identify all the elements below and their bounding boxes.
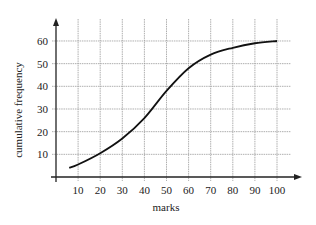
- x-tick-label: 90: [249, 184, 261, 196]
- y-tick-label: 30: [37, 103, 49, 115]
- x-tick-label: 10: [73, 184, 85, 196]
- x-axis-label: marks: [153, 201, 180, 213]
- y-axis-label: cumulative frequency: [12, 62, 24, 158]
- y-tick-label: 20: [37, 126, 49, 138]
- x-tick-label: 60: [183, 184, 195, 196]
- y-tick-label: 60: [37, 35, 49, 47]
- x-tick-label: 80: [227, 184, 239, 196]
- x-tick-label: 30: [117, 184, 129, 196]
- y-tick-label: 40: [37, 80, 49, 92]
- cumulative-frequency-chart: 102030405060708090100102030405060 marks …: [0, 0, 316, 225]
- x-tick-label: 100: [269, 184, 286, 196]
- y-axis-arrow-icon: [53, 18, 59, 26]
- y-tick-label: 50: [37, 58, 49, 70]
- y-tick-label: 10: [37, 148, 49, 160]
- x-tick-label: 40: [139, 184, 151, 196]
- x-tick-label: 50: [161, 184, 173, 196]
- x-axis-arrow-icon: [294, 174, 302, 180]
- x-tick-label: 20: [95, 184, 107, 196]
- tick-labels: 102030405060708090100102030405060: [37, 35, 286, 196]
- x-tick-label: 70: [205, 184, 217, 196]
